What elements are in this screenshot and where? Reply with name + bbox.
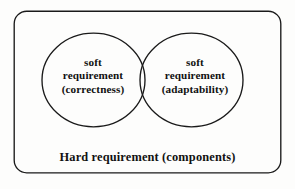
left-set-label: soft requirement (correctness): [43, 56, 143, 96]
right-set-label-line-2: requirement: [145, 69, 245, 82]
diagram-canvas: soft requirement (correctness) soft requ…: [0, 0, 295, 189]
left-set-label-line-2: requirement: [43, 69, 143, 82]
right-set-label-line-1: soft: [145, 56, 245, 69]
left-set-label-line-1: soft: [43, 56, 143, 69]
right-set-label-line-3: (adaptability): [145, 83, 245, 96]
outer-container-label: Hard requirement (components): [14, 150, 281, 165]
left-set-label-line-3: (correctness): [43, 83, 143, 96]
right-set-label: soft requirement (adaptability): [145, 56, 245, 96]
